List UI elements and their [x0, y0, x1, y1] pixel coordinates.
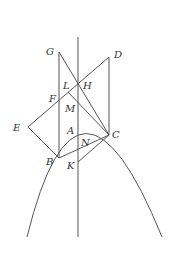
label-E: E — [12, 122, 21, 133]
label-D: D — [113, 49, 122, 60]
label-F: F — [48, 93, 57, 104]
line-EB — [28, 127, 59, 158]
geometry-diagram: G D L H F M E A C N B K — [0, 0, 178, 259]
label-L: L — [62, 80, 70, 91]
parabola-curve — [27, 134, 162, 238]
label-M: M — [64, 103, 76, 114]
label-C: C — [112, 129, 120, 140]
label-K: K — [66, 160, 75, 171]
label-A: A — [66, 125, 74, 136]
label-B: B — [45, 156, 53, 167]
label-H: H — [82, 80, 92, 91]
label-N: N — [80, 137, 91, 148]
label-G: G — [46, 46, 54, 57]
